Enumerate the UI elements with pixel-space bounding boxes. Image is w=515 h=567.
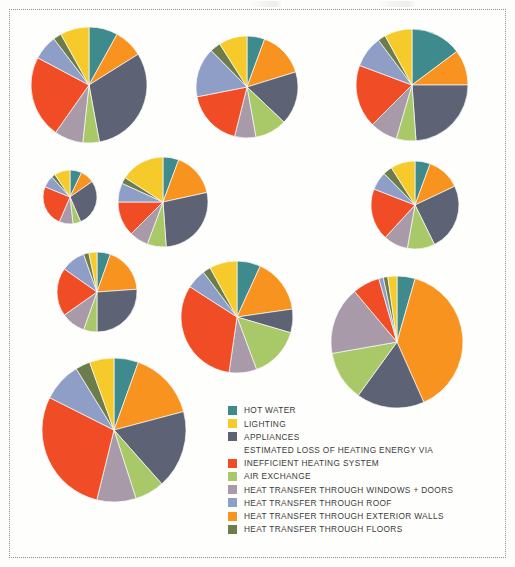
legend-item-row[interactable]: LIGHTING (228, 417, 490, 430)
pie-chart: HOT WATERHEAT TRANSFER THROUGH EXTERIOR … (369, 159, 461, 251)
legend-item-swatch-icon (228, 472, 237, 481)
pie-chart: HOT WATERHEAT TRANSFER THROUGH EXTERIOR … (194, 34, 300, 140)
legend-item-swatch-icon (228, 419, 237, 428)
pie-chart: HOT WATERHEAT TRANSFER THROUGH EXTERIOR … (40, 356, 188, 504)
legend-item-row[interactable]: HOT WATER (228, 404, 490, 417)
legend-item-label: INEFFICIENT HEATING SYSTEM (244, 459, 379, 467)
legend-item-label: HEAT TRANSFER THROUGH ROOF (244, 499, 392, 507)
legend-item-label: HEAT TRANSFER THROUGH FLOORS (244, 525, 403, 533)
legend-item-label: LIGHTING (244, 420, 286, 428)
legend-heading-row: ESTIMATED LOSS OF HEATING ENERGY VIA (228, 444, 490, 457)
legend-item-row[interactable]: INEFFICIENT HEATING SYSTEM (228, 457, 490, 470)
pie-chart: HOT WATERHEAT TRANSFER THROUGH EXTERIOR … (41, 168, 99, 226)
legend-item-swatch-icon (228, 406, 237, 415)
pie-chart: HOT WATERHEAT TRANSFER THROUGH EXTERIOR … (329, 274, 465, 410)
legend-item-row[interactable]: HEAT TRANSFER THROUGH WINDOWS + DOORS (228, 483, 490, 496)
legend-item-label: APPLIANCES (244, 433, 300, 441)
legend-item-row[interactable]: APPLIANCES (228, 430, 490, 443)
legend-item-row[interactable]: AIR EXCHANGE (228, 470, 490, 483)
pie-chart: HOT WATERHEAT TRANSFER THROUGH EXTERIOR … (55, 250, 139, 334)
pie-chart: HOT WATERHEAT TRANSFER THROUGH EXTERIOR … (29, 25, 149, 145)
legend-item-swatch-icon (228, 459, 237, 468)
legend-item-row[interactable]: HEAT TRANSFER THROUGH ROOF (228, 496, 490, 509)
legend-item-label: AIR EXCHANGE (244, 472, 311, 480)
legend-item-label: HOT WATER (244, 406, 296, 414)
legend-item-label: HEAT TRANSFER THROUGH EXTERIOR WALLS (244, 512, 444, 520)
legend-item-swatch-icon (228, 525, 237, 534)
legend: HOT WATERLIGHTINGAPPLIANCES ESTIMATED LO… (228, 404, 490, 536)
legend-item-row[interactable]: HEAT TRANSFER THROUGH EXTERIOR WALLS (228, 510, 490, 523)
legend-item-swatch-icon (228, 498, 237, 507)
legend-loss-group: INEFFICIENT HEATING SYSTEMAIR EXCHANGEHE… (228, 457, 490, 536)
pie-slice: APPLIANCES (163, 192, 208, 246)
pie-chart: HOT WATERHEAT TRANSFER THROUGH EXTERIOR … (179, 259, 295, 375)
legend-heading-label: ESTIMATED LOSS OF HEATING ENERGY VIA (244, 446, 433, 454)
pie-chart: HOT WATERHEAT TRANSFER THROUGH EXTERIOR … (116, 155, 210, 249)
legend-item-row[interactable]: HEAT TRANSFER THROUGH FLOORS (228, 523, 490, 536)
legend-top-group: HOT WATERLIGHTINGAPPLIANCES (228, 404, 490, 444)
legend-item-label: HEAT TRANSFER THROUGH WINDOWS + DOORS (244, 486, 453, 494)
legend-item-swatch-icon (228, 485, 237, 494)
pie-chart: HOT WATERHEAT TRANSFER THROUGH EXTERIOR … (354, 27, 470, 143)
pie-slice: APPLIANCES (412, 85, 468, 141)
legend-item-swatch-icon (228, 432, 237, 441)
legend-item-swatch-icon (228, 512, 237, 521)
legend-heading-spacer (228, 446, 237, 455)
pie-slice: APPLIANCES (97, 289, 137, 332)
